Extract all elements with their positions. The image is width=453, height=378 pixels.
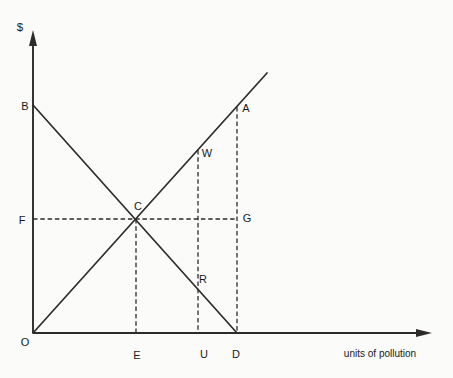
y-axis-arrowhead bbox=[29, 30, 37, 46]
point-label-g: G bbox=[243, 212, 252, 224]
point-label-b: B bbox=[21, 100, 28, 112]
pollution-diagram: $units of pollutionBFOCWRAGEUD bbox=[0, 0, 453, 378]
point-label-w: W bbox=[202, 147, 213, 159]
point-label-d: D bbox=[232, 348, 240, 360]
point-label-r: R bbox=[199, 273, 207, 285]
y-axis-label-dollar: $ bbox=[17, 21, 24, 33]
point-label-c: C bbox=[134, 200, 142, 212]
rising-cost-line bbox=[33, 73, 267, 333]
point-label-e: E bbox=[133, 349, 140, 361]
point-label-o: O bbox=[21, 336, 30, 348]
diagram-canvas: $units of pollutionBFOCWRAGEUD bbox=[0, 0, 453, 378]
point-label-f: F bbox=[19, 214, 26, 226]
point-label-a: A bbox=[242, 102, 250, 114]
x-axis-arrowhead bbox=[416, 329, 432, 337]
point-label-u: U bbox=[200, 348, 208, 360]
x-axis-label: units of pollution bbox=[344, 348, 416, 359]
